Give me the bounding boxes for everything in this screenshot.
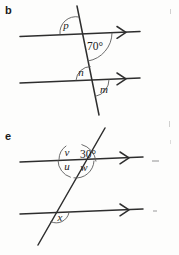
figure-e-angle-label-w: w [80, 161, 88, 173]
worksheet-page: b p 70° n m e [0, 0, 179, 255]
figure-b-angle-label-70: 70° [87, 40, 104, 52]
figure-e-diagram: v 30° u w x [0, 126, 179, 255]
figure-b-angle-label-n: n [78, 66, 84, 78]
scan-speck [170, 140, 171, 144]
figure-e-transversal-line [38, 128, 105, 245]
figure-e-angle-label-u: u [64, 160, 70, 172]
scan-speck [170, 9, 171, 14]
figure-b-diagram: p 70° n m [0, 0, 179, 126]
figure-b-angle-label-p: p [62, 19, 69, 31]
figure-b-angle-label-m: m [100, 83, 108, 95]
scan-speck [152, 160, 159, 162]
figure-e-angle-label-v: v [65, 146, 70, 158]
scan-speck [169, 121, 170, 127]
scan-speck [153, 210, 157, 212]
figure-b-transversal-line [77, 6, 99, 115]
figure-e-angle-label-x: x [57, 211, 63, 223]
figure-e-angle-label-30: 30° [80, 148, 97, 160]
